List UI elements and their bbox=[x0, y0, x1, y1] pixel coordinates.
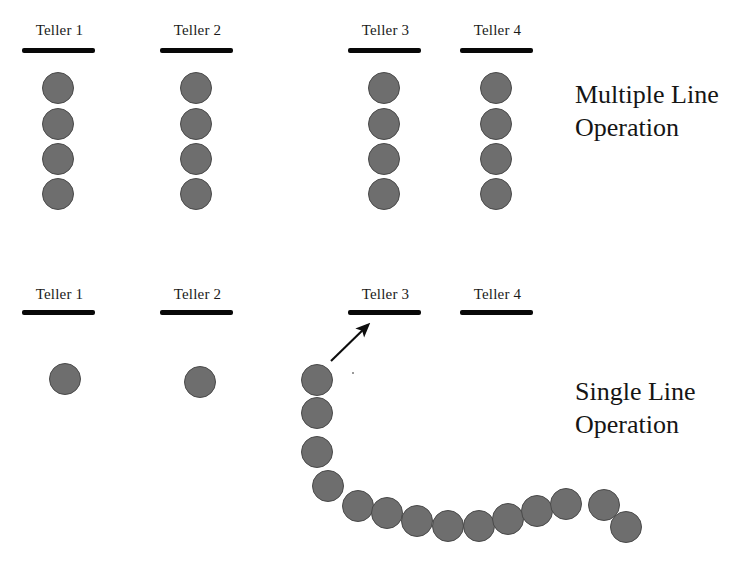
customer-circle bbox=[368, 108, 400, 140]
customer-circle bbox=[492, 503, 524, 535]
customer-circle bbox=[184, 366, 216, 398]
customer-circle bbox=[368, 178, 400, 210]
customer-circle bbox=[180, 108, 212, 140]
teller-label-2-multiple: Teller 2 bbox=[161, 22, 234, 39]
teller-label-1-single: Teller 1 bbox=[23, 286, 96, 303]
paper-speck bbox=[352, 372, 354, 374]
teller-counter-bar-3-multiple bbox=[348, 48, 421, 53]
customer-circle bbox=[521, 495, 553, 527]
customer-circle bbox=[342, 490, 374, 522]
customer-circle bbox=[301, 397, 333, 429]
teller-counter-bar-1-multiple bbox=[22, 48, 95, 53]
customer-circle bbox=[401, 505, 433, 537]
caption-multiple-line: Multiple Line Operation bbox=[575, 78, 719, 144]
customer-circle bbox=[301, 364, 333, 396]
teller-label-4-multiple: Teller 4 bbox=[461, 22, 534, 39]
teller-counter-bar-4-multiple bbox=[460, 48, 533, 53]
teller-label-3-multiple: Teller 3 bbox=[349, 22, 422, 39]
teller-counter-bar-4-single bbox=[460, 310, 533, 315]
teller-label-2-single: Teller 2 bbox=[161, 286, 234, 303]
customer-circle bbox=[550, 488, 582, 520]
customer-circle bbox=[368, 143, 400, 175]
customer-circle bbox=[42, 143, 74, 175]
customer-circle bbox=[463, 510, 495, 542]
teller-counter-bar-1-single bbox=[22, 310, 95, 315]
caption-multiple-line-row2: Operation bbox=[575, 111, 719, 144]
customer-circle bbox=[480, 178, 512, 210]
customer-circle bbox=[180, 143, 212, 175]
customer-circle bbox=[432, 510, 464, 542]
customer-circle bbox=[180, 178, 212, 210]
customer-circle bbox=[371, 497, 403, 529]
customer-circle bbox=[42, 108, 74, 140]
caption-single-line-row1: Single Line bbox=[575, 375, 696, 408]
teller-label-1-multiple: Teller 1 bbox=[23, 22, 96, 39]
customer-circle bbox=[42, 178, 74, 210]
teller-label-4-single: Teller 4 bbox=[461, 286, 534, 303]
teller-label-3-single: Teller 3 bbox=[349, 286, 422, 303]
customer-circle bbox=[42, 72, 74, 104]
customer-circle bbox=[480, 143, 512, 175]
teller-counter-bar-2-multiple bbox=[160, 48, 233, 53]
customer-circle bbox=[301, 436, 333, 468]
caption-multiple-line-row1: Multiple Line bbox=[575, 78, 719, 111]
queue-to-teller-arrow bbox=[331, 325, 368, 361]
customer-circle bbox=[480, 108, 512, 140]
customer-circle bbox=[368, 72, 400, 104]
customer-circle bbox=[180, 72, 212, 104]
diagram-canvas: Teller 1 Teller 2 Teller 3 Te bbox=[0, 0, 742, 565]
teller-counter-bar-3-single bbox=[348, 310, 421, 315]
caption-single-line-row2: Operation bbox=[575, 408, 696, 441]
customer-circle bbox=[610, 511, 642, 543]
customer-circle bbox=[49, 363, 81, 395]
customer-circle bbox=[312, 470, 344, 502]
customer-circle bbox=[480, 72, 512, 104]
teller-counter-bar-2-single bbox=[160, 310, 233, 315]
caption-single-line: Single Line Operation bbox=[575, 375, 696, 441]
